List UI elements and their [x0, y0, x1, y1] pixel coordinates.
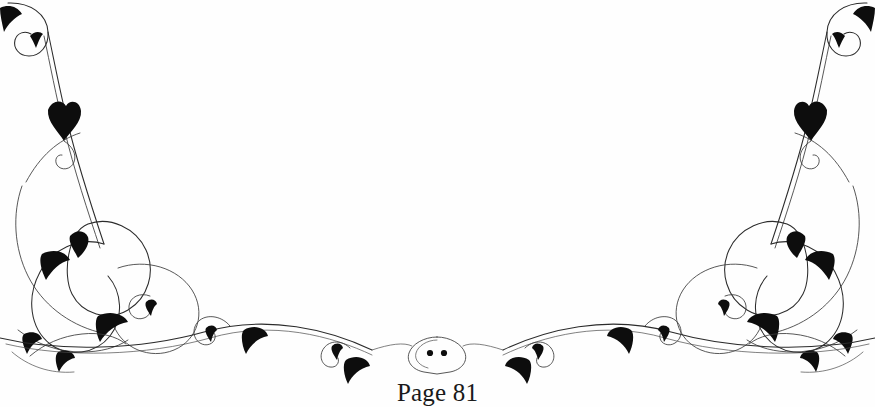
leaf-icon [853, 6, 875, 32]
leaf-icon [40, 251, 70, 280]
medallion-dot [441, 350, 447, 356]
leaf-icon [718, 300, 730, 316]
leaf-icon [56, 350, 75, 372]
leaf-icon [832, 32, 845, 48]
center-medallion [372, 337, 503, 374]
leaf-icon [787, 231, 806, 258]
leaf-icon [205, 326, 217, 342]
leaf-icon [48, 101, 81, 141]
leaf-icon [30, 32, 43, 48]
leaf-icon [805, 251, 835, 280]
leaf-icon [331, 344, 343, 360]
leaf-icon [532, 344, 544, 360]
leaf-icon [747, 313, 779, 342]
leaf-icon [658, 326, 670, 342]
leaf-icon [145, 300, 157, 316]
flourish-ornament [0, 0, 875, 407]
medallion-dot [427, 350, 433, 356]
leaf-icon [0, 6, 22, 32]
leaf-icon [70, 231, 89, 258]
leaf-icon [607, 327, 633, 354]
left-flourish [0, 3, 372, 384]
right-flourish [503, 3, 875, 384]
page-number-label: Page 81 [0, 378, 875, 407]
leaf-icon [242, 327, 268, 354]
leaf-icon [96, 313, 128, 342]
leaf-icon [800, 350, 819, 372]
leaf-icon [794, 101, 827, 141]
scanned-page: Page 81 [0, 0, 875, 407]
